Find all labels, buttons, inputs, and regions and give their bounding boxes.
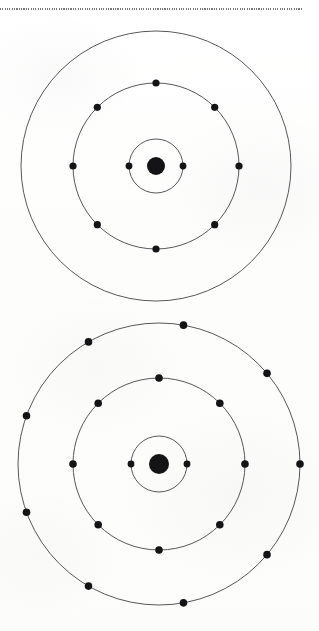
electron-shell-3-2 xyxy=(263,370,271,378)
electron-shell-3-9 xyxy=(263,551,271,559)
electron-shell-3-3 xyxy=(180,321,188,329)
electron-shell-2-6 xyxy=(94,221,101,228)
electron-shell-3-6 xyxy=(23,508,31,516)
electron-shell-2-5 xyxy=(69,460,77,468)
atom-top-svg xyxy=(13,23,299,309)
electron-shell-2-7 xyxy=(155,546,163,554)
electron-shell-2-1 xyxy=(235,162,242,169)
electron-shell-3-7 xyxy=(85,582,93,590)
electron-shell-2-2 xyxy=(211,104,218,111)
electron-shell-1-2 xyxy=(128,461,135,468)
electron-shell-1-1 xyxy=(180,163,187,170)
electron-shell-3-5 xyxy=(23,412,31,420)
electron-shell-2-1 xyxy=(241,460,249,468)
electron-shell-2-8 xyxy=(216,521,224,529)
electron-shell-2-5 xyxy=(69,162,76,169)
page-root: Bohr model atom 1 Bohr model atom 2 xyxy=(0,0,319,631)
electron-shell-3-8 xyxy=(180,599,188,607)
nucleus xyxy=(149,454,169,474)
atom-bottom-svg xyxy=(10,315,308,613)
atom-diagram-bottom xyxy=(10,315,308,613)
dotted-rule-divider xyxy=(0,8,303,10)
electron-shell-2-2 xyxy=(216,399,224,407)
electron-shell-1-2 xyxy=(126,163,133,170)
electron-shell-2-4 xyxy=(94,399,102,407)
nucleus xyxy=(147,157,165,175)
atom-diagram-top xyxy=(13,23,299,309)
electron-shell-1-1 xyxy=(184,461,191,468)
electron-shell-2-4 xyxy=(94,104,101,111)
electron-shell-2-3 xyxy=(152,79,159,86)
electron-shell-2-7 xyxy=(152,245,159,252)
electron-shell-3-4 xyxy=(85,338,93,346)
electron-shell-2-8 xyxy=(211,221,218,228)
electron-shell-2-6 xyxy=(94,521,102,529)
electron-shell-2-3 xyxy=(155,374,163,382)
electron-shell-3-1 xyxy=(296,460,304,468)
